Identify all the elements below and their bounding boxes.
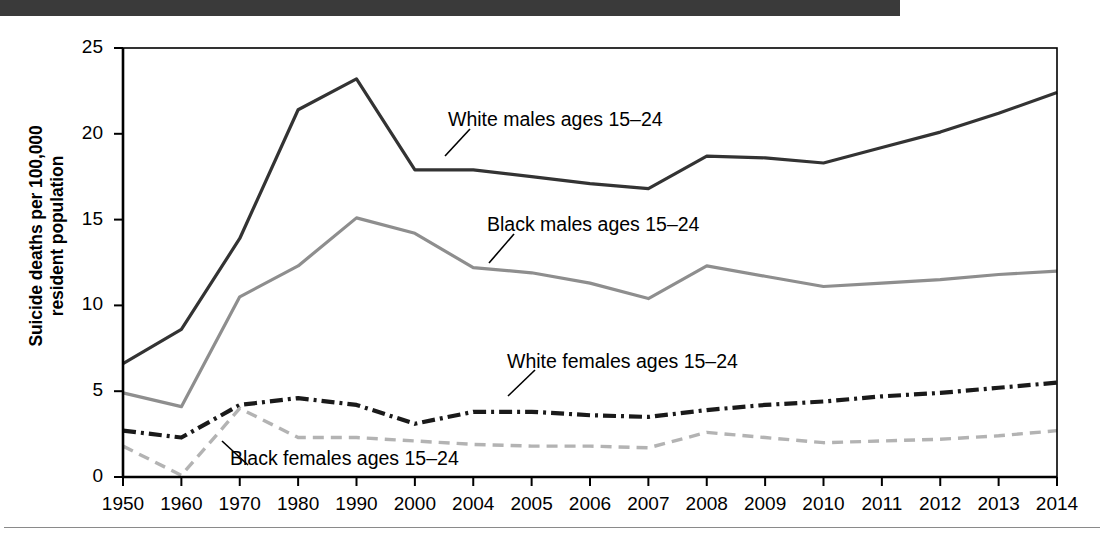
annotation-black-males: Black males ages 15–24 <box>487 215 699 235</box>
x-tick-label-2008: 2008 <box>676 493 738 515</box>
x-tick-label-2011: 2011 <box>851 493 913 515</box>
leader-white-males <box>445 129 470 156</box>
y-tick-label-10: 10 <box>57 293 103 315</box>
y-tick-label-20: 20 <box>57 122 103 144</box>
x-tick-label-2000: 2000 <box>384 493 446 515</box>
x-tick-label-2005: 2005 <box>501 493 563 515</box>
x-tick-label-2006: 2006 <box>559 493 621 515</box>
x-tick-label-1990: 1990 <box>326 493 388 515</box>
leader-white-females <box>508 370 535 396</box>
y-tick-label-5: 5 <box>57 379 103 401</box>
annotation-leader-lines <box>222 129 535 465</box>
annotation-white-females: White females ages 15–24 <box>507 352 738 372</box>
x-tick-label-2004: 2004 <box>442 493 504 515</box>
x-tick-label-1950: 1950 <box>92 493 154 515</box>
footer-divider <box>4 527 1100 528</box>
x-tick-label-2012: 2012 <box>909 493 971 515</box>
chart-figure: Suicide deaths per 100,000 resident popu… <box>0 16 1104 527</box>
y-tick-label-25: 25 <box>57 36 103 58</box>
x-tick-label-1960: 1960 <box>150 493 212 515</box>
x-tick-label-1980: 1980 <box>267 493 329 515</box>
series-layer <box>123 79 1057 475</box>
x-tick-label-2010: 2010 <box>793 493 855 515</box>
series-line-2 <box>123 383 1057 438</box>
annotation-white-males: White males ages 15–24 <box>448 110 663 130</box>
x-tick-label-2007: 2007 <box>617 493 679 515</box>
x-tick-label-2013: 2013 <box>968 493 1030 515</box>
series-line-1 <box>123 218 1057 407</box>
x-tick-label-2009: 2009 <box>734 493 796 515</box>
x-tick-label-1970: 1970 <box>209 493 271 515</box>
top-header-bar <box>0 0 900 16</box>
y-tick-label-0: 0 <box>57 465 103 487</box>
annotation-black-females: Black females ages 15–24 <box>230 449 459 469</box>
leader-black-males <box>489 234 514 263</box>
line-chart-plot <box>0 16 1104 527</box>
y-tick-label-15: 15 <box>57 208 103 230</box>
x-tick-label-2014: 2014 <box>1026 493 1088 515</box>
